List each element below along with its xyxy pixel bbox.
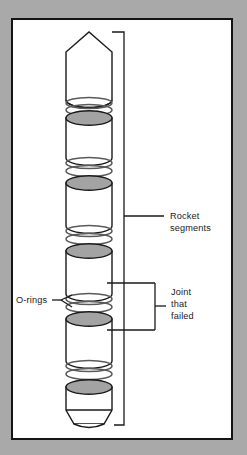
- nozzle-segment: [66, 380, 112, 428]
- rocket-segments-bracket-line: [112, 32, 124, 425]
- segment-2-top-face: [66, 111, 112, 125]
- o-rings-pointer: [52, 295, 72, 307]
- nose-cone-segment: [66, 32, 112, 108]
- oring-icon: [66, 233, 112, 244]
- rocket-segments-label-line2: segments: [170, 223, 211, 233]
- oring-icon: [66, 368, 112, 379]
- joint-that-failed-label: Joint that failed: [171, 287, 194, 321]
- joint-label-line1: Joint: [171, 287, 191, 297]
- rocket-diagram: Rocket segments Joint that failed O-ring…: [0, 0, 247, 455]
- rocket-segment-4: [66, 244, 112, 301]
- nose-cone-body: [66, 32, 112, 108]
- joint-that-failed-bracket: [107, 283, 166, 330]
- joint-label-line3: failed: [171, 311, 194, 321]
- figure-root: Rocket segments Joint that failed O-ring…: [0, 0, 247, 455]
- rocket-segments-bracket: [112, 32, 164, 425]
- rocket-segments-label: Rocket segments: [170, 211, 211, 233]
- segment-3-top-face: [66, 176, 112, 190]
- segment-5-top-face: [66, 312, 112, 326]
- rocket-segments-label-line1: Rocket: [170, 211, 200, 221]
- rocket-segment-3: [66, 176, 112, 233]
- nozzle-top-face: [66, 380, 112, 394]
- joint-label-line2: that: [171, 299, 187, 309]
- segment-4-top-face: [66, 244, 112, 258]
- oring-icon: [66, 165, 112, 176]
- oring-icon: [66, 301, 112, 312]
- nozzle-bottom-curve: [74, 424, 104, 428]
- o-rings-label: O-rings: [16, 295, 47, 305]
